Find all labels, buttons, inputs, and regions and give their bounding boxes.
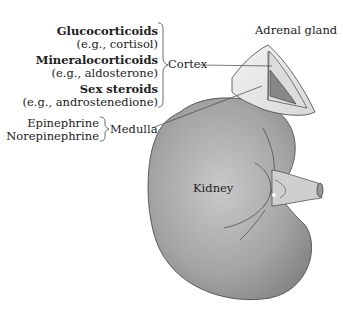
medulla-label: Medulla (110, 123, 158, 136)
medulla-hormones: Epinephrine Norepinephrine (6, 117, 99, 143)
hormone-norepinephrine: Norepinephrine (6, 130, 99, 143)
vessel-opening (317, 183, 323, 197)
medulla-brace (100, 117, 109, 141)
hormone-example: (e.g., androstenedione) (22, 96, 158, 109)
kidney-adrenal-illustration (0, 0, 343, 314)
hormone-mineralocorticoids: Mineralocorticoids (e.g., aldosterone) (36, 54, 158, 80)
hormone-example: (e.g., aldosterone) (36, 67, 158, 80)
hormone-sex-steroids: Sex steroids (e.g., androstenedione) (22, 83, 158, 109)
hormone-example: (e.g., cortisol) (57, 38, 158, 51)
adrenal-gland-label: Adrenal gland (255, 24, 337, 37)
renal-vessels (272, 170, 322, 206)
hormone-glucocorticoids: Glucocorticoids (e.g., cortisol) (57, 25, 158, 51)
kidney-label: Kidney (193, 182, 233, 195)
cortex-brace (158, 23, 168, 107)
cortex-label: Cortex (168, 58, 207, 71)
